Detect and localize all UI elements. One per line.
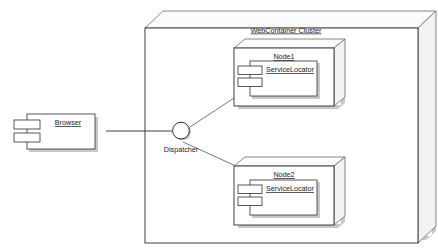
- dispatcher-label: Dispatcher: [164, 145, 199, 154]
- node2-component-tab-upper: [238, 185, 262, 194]
- node2-label: Node2: [273, 170, 294, 179]
- node1-servicelocator-component[interactable]: ServiceLocator: [238, 61, 320, 99]
- node1-component-tab-upper: [238, 66, 262, 75]
- browser-tab-upper: [14, 120, 40, 129]
- node1-component-label: ServiceLocator: [266, 65, 315, 74]
- node-1[interactable]: Node1 ServiceLocator: [234, 39, 345, 109]
- browser-tab-lower: [14, 133, 40, 142]
- browser-label: Browser: [55, 118, 82, 127]
- node2-servicelocator-component[interactable]: ServiceLocator: [238, 180, 320, 218]
- node-2[interactable]: Node2 ServiceLocator: [234, 157, 345, 228]
- node1-side-face: [334, 39, 345, 106]
- node1-top-face: [234, 39, 345, 48]
- node2-top-face: [234, 157, 345, 166]
- node2-component-tab-lower: [238, 197, 262, 206]
- node2-component-label: ServiceLocator: [266, 184, 315, 193]
- node1-component-tab-lower: [238, 78, 262, 87]
- cluster-side-face: [418, 11, 436, 243]
- diagram-canvas: WebContainer Cluster Browser Dispatcher: [0, 0, 438, 249]
- browser-component[interactable]: Browser: [14, 114, 98, 152]
- node1-label: Node1: [273, 52, 294, 61]
- node2-side-face: [334, 157, 345, 225]
- uml-deployment-diagram: WebContainer Cluster Browser Dispatcher: [0, 0, 438, 249]
- cluster-label: WebContainer Cluster: [251, 26, 322, 35]
- dispatcher-circle: [173, 122, 190, 139]
